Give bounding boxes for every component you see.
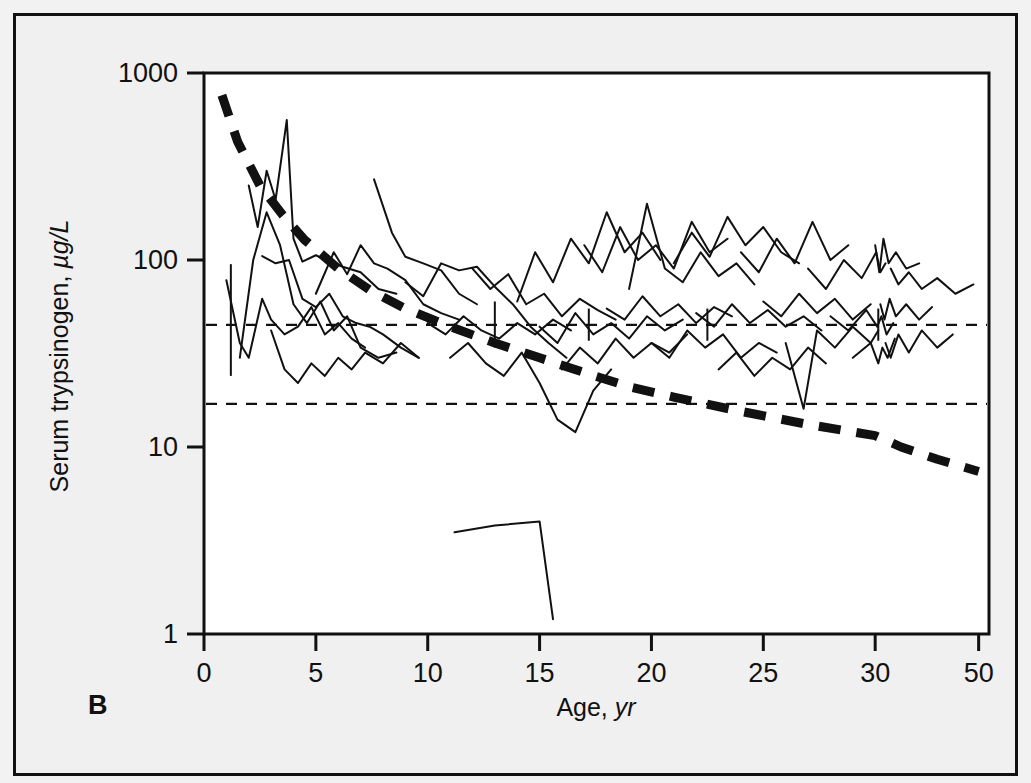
x-tick-label: 0 xyxy=(196,658,211,688)
axis-label-italic: yr xyxy=(613,693,638,721)
x-tick-label: 10 xyxy=(413,658,443,688)
x-tick-label: 15 xyxy=(525,658,555,688)
panel-label: B xyxy=(88,690,108,720)
figure-panel: 1101001000 05101520253050 Age, yr Serum … xyxy=(0,0,1031,783)
chart-svg: 1101001000 05101520253050 Age, yr Serum … xyxy=(16,16,1015,773)
figure-border: 1101001000 05101520253050 Age, yr Serum … xyxy=(13,13,1018,776)
plot-area xyxy=(204,73,989,634)
y-tick-label: 1 xyxy=(163,619,178,649)
axis-label-italic: µg/L xyxy=(45,220,73,270)
y-axis-label: Serum trypsinogen, µg/L xyxy=(45,220,73,493)
x-tick-label: 30 xyxy=(860,658,890,688)
y-tick-label: 100 xyxy=(133,245,178,275)
x-tick-label: 25 xyxy=(748,658,778,688)
axis-label-main: Serum trypsinogen, xyxy=(45,269,73,493)
axis-label-main: Age, xyxy=(556,693,614,721)
x-tick-label: 20 xyxy=(636,658,666,688)
y-tick-label: 10 xyxy=(148,432,178,462)
y-tick-label: 1000 xyxy=(118,58,178,88)
x-axis-label: Age, yr xyxy=(556,693,637,721)
x-tick-label: 50 xyxy=(964,658,994,688)
x-tick-label: 5 xyxy=(308,658,323,688)
